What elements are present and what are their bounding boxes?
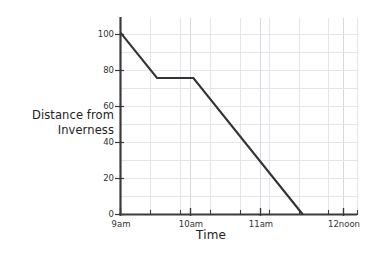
y-axis-title: Distance fromInverness (6, 108, 114, 138)
y-axis-title-line-1: Distance from (32, 108, 114, 122)
x-tick-label-9am: 9am (106, 219, 136, 229)
x-tick-label-11am: 11am (244, 219, 278, 229)
distance-series-line (121, 33, 303, 215)
x-tick-label-12noon: 12noon (323, 219, 365, 229)
hour-gridlines (191, 18, 344, 214)
distance-time-chart: 100 80 60 40 20 0 9am 10am 11am 12noon D… (0, 0, 379, 253)
y-tick-label-20: 20 (88, 173, 114, 183)
vertical-gridlines (151, 18, 358, 214)
y-tick-label-80: 80 (88, 65, 114, 75)
y-tick-label-0: 0 (88, 209, 114, 219)
y-tick-label-40: 40 (88, 137, 114, 147)
y-axis-title-line-2: Inverness (58, 123, 114, 137)
horizontal-gridlines (120, 35, 357, 197)
y-tick-label-100: 100 (88, 29, 114, 39)
x-axis-title: Time (196, 228, 226, 242)
